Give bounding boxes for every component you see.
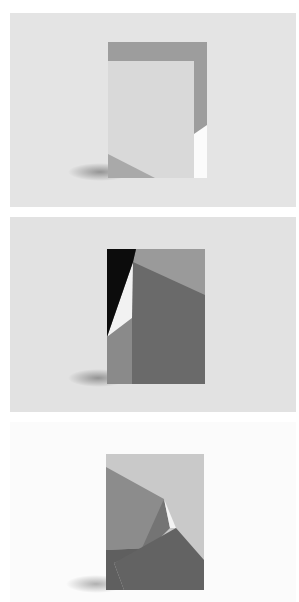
white-strip xyxy=(194,125,207,178)
composition-panel-2: Composition 2 — black triangle, white sl… xyxy=(10,217,296,412)
artwork-2 xyxy=(10,217,296,412)
card-inner-panel xyxy=(108,61,194,178)
artwork-3 xyxy=(10,422,296,602)
composition-panel-1: Composition 1 — light card with gray top… xyxy=(10,13,296,207)
artwork-1 xyxy=(10,13,296,207)
composition-panel-3: Composition 3 — overlapping gray polygon… xyxy=(10,422,296,602)
